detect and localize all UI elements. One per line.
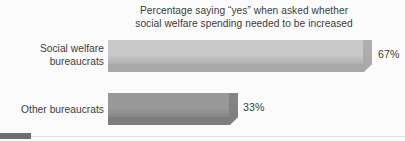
bar-social-welfare-bureaucrats xyxy=(108,40,372,72)
bar-shadow-face xyxy=(108,64,372,72)
chart-title: Percentage saying “yes” when asked wheth… xyxy=(108,4,380,30)
bar-other-bureaucrats xyxy=(108,93,238,125)
baseline-rule xyxy=(31,136,405,137)
category-label-other-bureaucrats: Other bureaucrats xyxy=(21,103,104,116)
bar-bevel-wedge xyxy=(363,40,372,72)
bar-group-social-welfare-bureaucrats xyxy=(108,40,372,72)
category-label-social-welfare-bureaucrats: Social welfare bureaucrats xyxy=(40,42,104,69)
value-label-other-bureaucrats: 33% xyxy=(243,101,264,113)
bar-face xyxy=(108,40,372,64)
bar-bevel-wedge xyxy=(229,93,238,125)
bar-group-other-bureaucrats xyxy=(108,93,238,125)
corner-mark xyxy=(0,133,31,139)
bar-shadow-face xyxy=(108,117,238,125)
bar-face xyxy=(108,93,238,117)
chart-figure: Percentage saying “yes” when asked wheth… xyxy=(0,0,405,141)
value-label-social-welfare-bureaucrats: 67% xyxy=(378,48,399,60)
